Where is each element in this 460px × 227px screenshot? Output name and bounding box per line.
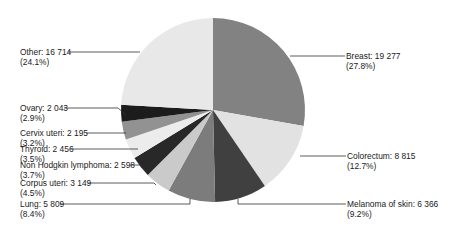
label-melanoma: Melanoma of skin: 6 366 (9.2%) <box>347 199 438 219</box>
label-cervix-uteri-percent: (3.2%) <box>20 138 88 148</box>
label-ovary-percent: (2.9%) <box>20 113 68 123</box>
label-lung: Lung: 5 809 (8.4%) <box>20 199 64 219</box>
pie-slice-other <box>121 18 213 110</box>
label-corpus-uteri-percent: (4.5%) <box>20 188 91 198</box>
label-melanoma-value: Melanoma of skin: 6 366 <box>347 199 438 209</box>
pie-slices <box>121 18 305 202</box>
label-cervix-uteri: Cervix uteri: 2 195 (3.2%) <box>20 128 88 148</box>
label-colorectum: Colorectum: 8 815 (12.7%) <box>347 151 415 171</box>
pie-slice-breast <box>213 18 305 126</box>
label-melanoma-percent: (9.2%) <box>347 209 438 219</box>
leader-line-melanoma <box>238 199 346 204</box>
label-breast-value: Breast: 19 277 <box>346 51 400 61</box>
label-lung-value: Lung: 5 809 <box>20 199 64 209</box>
label-other-percent: (24.1%) <box>20 57 71 67</box>
label-corpus-uteri: Corpus uteri: 3 149 (4.5%) <box>20 178 91 198</box>
label-nhl-percent: (3.7%) <box>20 170 135 180</box>
leader-line-ovary <box>64 108 126 115</box>
label-lung-percent: (8.4%) <box>20 209 64 219</box>
leader-line-lung <box>60 199 190 204</box>
label-breast: Breast: 19 277 (27.8%) <box>346 51 400 71</box>
label-breast-percent: (27.8%) <box>346 61 400 71</box>
label-cervix-uteri-value: Cervix uteri: 2 195 <box>20 128 88 138</box>
label-colorectum-percent: (12.7%) <box>347 161 415 171</box>
label-colorectum-value: Colorectum: 8 815 <box>347 151 415 161</box>
leader-line-corpus-uteri <box>88 183 156 185</box>
label-ovary: Ovary: 2 043 (2.9%) <box>20 103 68 123</box>
label-ovary-value: Ovary: 2 043 <box>20 103 68 113</box>
label-thyroid-percent: (3.5%) <box>20 154 74 164</box>
label-other: Other: 16 714 (24.1%) <box>20 47 71 67</box>
label-other-value: Other: 16 714 <box>20 47 71 57</box>
